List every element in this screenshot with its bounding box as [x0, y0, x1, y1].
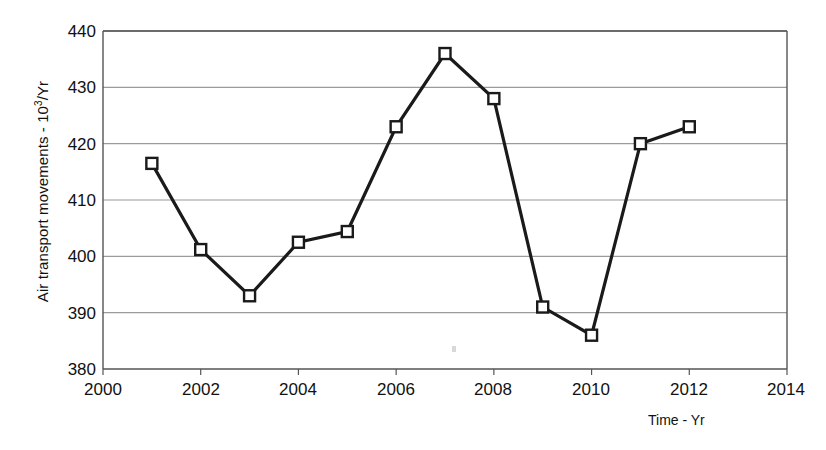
data-point-2003 [244, 290, 255, 301]
data-point-2002 [195, 244, 206, 255]
data-line [152, 54, 689, 336]
data-point-2011 [635, 138, 646, 149]
gridlines [103, 31, 787, 313]
x-axis-title: Time - Yr [648, 412, 705, 428]
data-point-2004 [293, 237, 304, 248]
data-point-2007 [440, 48, 451, 59]
plot-area [0, 0, 826, 450]
data-point-2006 [391, 121, 402, 132]
line-chart: Air transport movements - 103/Yr 440 430… [0, 0, 826, 450]
screenshot-root: Air transport movements - 103/Yr 440 430… [0, 0, 826, 450]
data-point-2012 [684, 121, 695, 132]
data-point-2008 [488, 93, 499, 104]
scan-artifact [452, 346, 456, 352]
data-point-2005 [342, 226, 353, 237]
data-point-2010 [586, 330, 597, 341]
data-point-2009 [537, 302, 548, 313]
x-axis-ticks [103, 369, 787, 375]
data-point-2001 [146, 158, 157, 169]
